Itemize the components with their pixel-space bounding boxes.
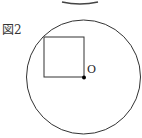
center-point-o xyxy=(82,76,86,80)
point-o-label: O xyxy=(87,63,96,76)
figure-label: 図2 xyxy=(2,20,22,37)
partial-arc-top xyxy=(62,2,98,4)
square xyxy=(44,37,84,77)
